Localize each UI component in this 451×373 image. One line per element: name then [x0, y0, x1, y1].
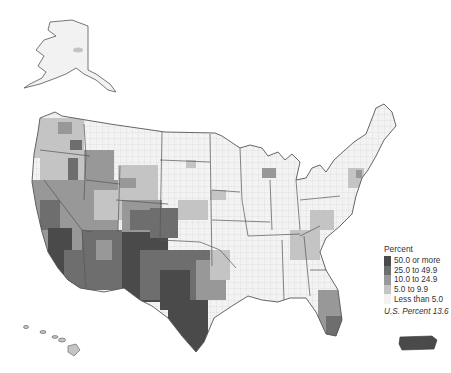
legend-label: 5.0 to 9.9	[394, 285, 428, 294]
legend-swatch	[384, 275, 391, 285]
legend-swatch	[384, 256, 391, 266]
legend-swatch	[384, 266, 391, 276]
legend-item: 50.0 or more	[384, 256, 451, 266]
legend-label: 10.0 to 24.9	[394, 275, 437, 284]
legend-item: 25.0 to 49.9	[384, 266, 451, 276]
hawaii-inset	[24, 325, 81, 356]
legend-swatch	[384, 294, 391, 304]
alaska-inset	[24, 20, 116, 92]
legend-label: 50.0 or more	[394, 256, 440, 265]
puerto-rico-inset	[399, 336, 437, 350]
legend: Percent 50.0 or more 25.0 to 49.9 10.0 t…	[384, 244, 451, 316]
legend-swatch	[384, 285, 391, 295]
legend-title: Percent	[384, 244, 451, 254]
choropleth-map	[0, 0, 451, 373]
legend-label: Less than 5.0	[394, 295, 443, 304]
legend-item: Less than 5.0	[384, 294, 451, 304]
legend-item: 10.0 to 24.9	[384, 275, 451, 285]
legend-label: 25.0 to 49.9	[394, 266, 437, 275]
contiguous-us	[0, 90, 451, 370]
legend-item: 5.0 to 9.9	[384, 285, 451, 295]
us-percent-note: U.S. Percent 13.6	[384, 307, 451, 316]
